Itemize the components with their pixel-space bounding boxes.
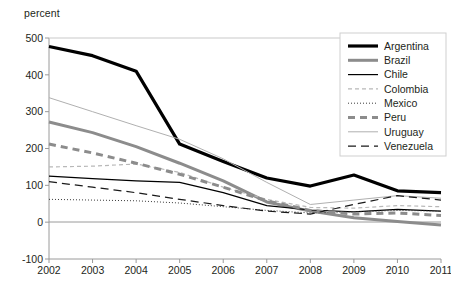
chart-legend: ArgentinaBrazilChileColombiaMexicoPeruUr… bbox=[340, 33, 446, 156]
x-tick-label: 2003 bbox=[81, 264, 105, 276]
legend-label-colombia: Colombia bbox=[384, 83, 429, 95]
x-tick-label: 2010 bbox=[386, 264, 410, 276]
legend-label-uruguay: Uruguay bbox=[384, 126, 424, 138]
legend-label-argentina: Argentina bbox=[384, 40, 429, 52]
y-tick-label: 400 bbox=[25, 69, 43, 81]
x-axis-tick-marks bbox=[49, 259, 441, 263]
x-axis-tick-labels: 2002200320042005200620072008200920102011 bbox=[37, 264, 451, 276]
line-chart: 5004003002001000-100 2002200320042005200… bbox=[0, 0, 451, 298]
x-tick-label: 2007 bbox=[255, 264, 279, 276]
y-tick-label: 100 bbox=[25, 179, 43, 191]
x-tick-label: 2004 bbox=[124, 264, 148, 276]
x-tick-label: 2011 bbox=[430, 264, 451, 276]
y-axis-unit-label: percent bbox=[24, 7, 60, 19]
x-tick-label: 2002 bbox=[37, 264, 61, 276]
y-tick-label: 0 bbox=[37, 216, 43, 228]
y-axis-tick-marks bbox=[45, 38, 49, 259]
legend-label-brazil: Brazil bbox=[384, 54, 410, 66]
legend-label-chile: Chile bbox=[384, 68, 408, 80]
legend-label-peru: Peru bbox=[384, 111, 406, 123]
x-tick-label: 2009 bbox=[342, 264, 366, 276]
y-tick-label: 500 bbox=[25, 32, 43, 44]
legend-label-mexico: Mexico bbox=[384, 97, 417, 109]
y-axis-tick-labels: 5004003002001000-100 bbox=[22, 32, 43, 265]
x-tick-label: 2005 bbox=[168, 264, 192, 276]
legend-label-venezuela: Venezuela bbox=[384, 140, 433, 152]
x-tick-label: 2006 bbox=[212, 264, 236, 276]
chart-container: percent 5004003002001000-100 20022003200… bbox=[0, 0, 451, 298]
y-tick-label: -100 bbox=[22, 253, 43, 265]
y-tick-label: 300 bbox=[25, 105, 43, 117]
y-tick-label: 200 bbox=[25, 142, 43, 154]
x-tick-label: 2008 bbox=[299, 264, 323, 276]
